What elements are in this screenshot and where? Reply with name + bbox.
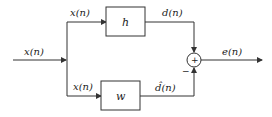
block-h-label: h — [122, 16, 129, 29]
top-output-line — [145, 22, 194, 52]
minus-sign: − — [182, 66, 190, 76]
bottom-branch-label: x(n) — [73, 81, 93, 92]
top-branch-label: x(n) — [70, 7, 90, 18]
top-output-label: d(n) — [162, 7, 183, 18]
output-label: e(n) — [222, 46, 242, 57]
sum-symbol: + — [191, 55, 199, 65]
block-diagram: x(n) x(n) x(n) h w d(n) d̂(n) + − e(n) — [0, 0, 272, 117]
input-label: x(n) — [24, 46, 44, 57]
bottom-output-label: d̂(n) — [155, 81, 176, 93]
block-w-label: w — [116, 90, 126, 103]
